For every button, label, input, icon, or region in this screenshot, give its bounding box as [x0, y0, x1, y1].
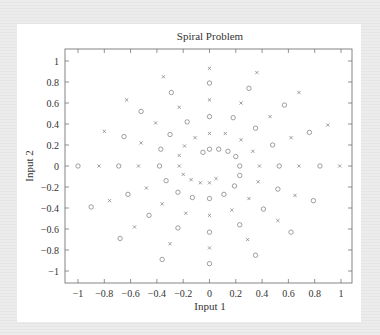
circle-marker: [307, 130, 311, 134]
y-axis-label: Input 2: [23, 150, 35, 181]
circle-marker: [176, 190, 180, 194]
circle-marker: [159, 147, 163, 151]
y-tick-label: −0.4: [41, 203, 59, 214]
cross-marker: [293, 194, 296, 197]
cross-marker: [338, 164, 341, 167]
circle-marker: [76, 164, 80, 168]
cross-marker: [224, 132, 227, 135]
cross-marker: [103, 130, 106, 133]
circle-marker: [226, 149, 230, 153]
circle-marker: [318, 164, 322, 168]
cross-marker: [97, 164, 100, 167]
cross-marker: [182, 173, 185, 176]
data-points: [76, 67, 341, 266]
cross-marker: [230, 209, 233, 212]
x-tick-label: −0.4: [148, 288, 166, 299]
y-tick-label: 0: [54, 161, 59, 172]
y-tick-label: −0.2: [41, 182, 59, 193]
cross-marker: [297, 164, 300, 167]
cross-marker: [184, 212, 187, 215]
circle-marker: [270, 143, 274, 147]
cross-marker: [162, 75, 165, 78]
circle-marker: [207, 230, 211, 234]
cross-marker: [208, 246, 211, 249]
y-tick-label: 0.8: [47, 77, 60, 88]
x-tick-label: 0.4: [256, 288, 269, 299]
circle-marker: [217, 147, 221, 151]
y-tick-label: 1: [54, 56, 59, 67]
circle-marker: [207, 114, 211, 118]
x-tick-label: 1: [339, 288, 344, 299]
circle-marker: [190, 195, 194, 199]
x-axis-label: Input 1: [194, 300, 225, 312]
cross-marker: [161, 202, 164, 205]
cross-marker: [178, 154, 181, 157]
cross-marker: [178, 106, 181, 109]
circle-marker: [311, 198, 315, 202]
cross-marker: [276, 219, 279, 222]
cross-marker: [251, 150, 254, 153]
circle-marker: [207, 147, 211, 151]
circle-marker: [126, 192, 130, 196]
x-tick-label: 0.6: [282, 288, 295, 299]
y-tick-label: −0.6: [41, 224, 59, 235]
circle-marker: [89, 205, 93, 209]
circle-marker: [232, 184, 236, 188]
circle-marker: [222, 192, 226, 196]
cross-marker: [214, 177, 217, 180]
cross-marker: [258, 164, 261, 167]
circle-marker: [176, 226, 180, 230]
cross-marker: [108, 199, 111, 202]
x-tick-label: 0.8: [308, 288, 321, 299]
cross-marker: [193, 136, 196, 139]
chart-title: Spiral Problem: [177, 30, 244, 42]
x-tick-label: 0: [207, 288, 212, 299]
y-tick-label: 0.2: [47, 140, 60, 151]
circle-marker: [238, 173, 242, 177]
cross-marker: [208, 67, 211, 70]
y-tick-label: −1: [48, 266, 59, 277]
circle-marker: [164, 179, 168, 183]
plot-frame: [65, 49, 352, 283]
circle-marker: [238, 164, 242, 168]
circle-marker: [276, 187, 280, 191]
circle-marker: [201, 150, 205, 154]
circle-marker: [247, 86, 251, 90]
cross-marker: [255, 71, 258, 74]
circle-marker: [117, 164, 121, 168]
circle-marker: [253, 253, 257, 257]
circle-marker: [289, 230, 293, 234]
cross-marker: [145, 186, 148, 189]
scatter-chart: Spiral Problem −1−0.8−0.6−0.4−0.200.20.4…: [0, 0, 380, 335]
y-tick-label: −0.8: [41, 245, 59, 256]
x-tick-label: −0.6: [122, 288, 140, 299]
circle-marker: [139, 109, 143, 113]
cross-marker: [199, 181, 202, 184]
circle-marker: [169, 90, 173, 94]
cross-marker: [239, 138, 242, 141]
cross-marker: [168, 242, 171, 245]
cross-marker: [208, 214, 211, 217]
x-tick-label: −1: [73, 288, 84, 299]
circle-marker: [253, 126, 257, 130]
cross-marker: [326, 123, 329, 126]
cross-marker: [268, 115, 271, 118]
cross-marker: [137, 164, 140, 167]
circle-marker: [207, 81, 211, 85]
cross-marker: [257, 180, 260, 183]
circle-marker: [231, 116, 235, 120]
cross-marker: [178, 164, 181, 167]
y-tick-label: 0.6: [47, 98, 60, 109]
circle-marker: [207, 196, 211, 200]
cross-marker: [183, 144, 186, 147]
x-tick-label: 0.2: [230, 288, 243, 299]
cross-marker: [297, 91, 300, 94]
x-tick-label: −0.8: [95, 288, 113, 299]
circle-marker: [122, 134, 126, 138]
circle-marker: [160, 257, 164, 261]
circle-marker: [238, 223, 242, 227]
cross-marker: [208, 181, 211, 184]
circle-marker: [282, 103, 286, 107]
y-axis-ticks: −1−0.8−0.6−0.4−0.200.20.40.60.81: [41, 56, 352, 277]
cross-marker: [189, 178, 192, 181]
